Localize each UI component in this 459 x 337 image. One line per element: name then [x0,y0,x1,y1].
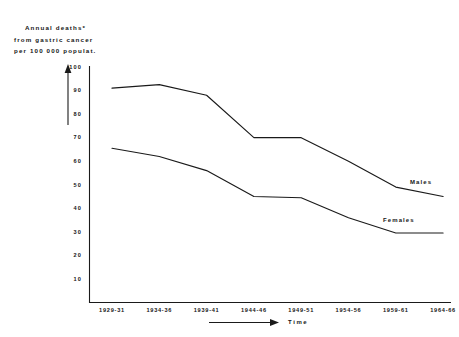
x-axis-title: Time [288,319,308,325]
y-tick-80: 80 [60,111,82,117]
y-tick-90: 90 [60,87,82,93]
series-label-males: Males [410,179,432,185]
x-tick-1944-46: 1944-46 [241,307,267,313]
chart-figure: Annual deaths* from gastric cancer per 1… [0,0,459,337]
plot-area [0,0,459,337]
series-label-females: Females [383,217,415,223]
x-tick-1954-56: 1954-56 [336,307,362,313]
y-tick-30: 30 [60,229,82,235]
x-axis-arrow-icon [209,319,279,326]
y-tick-60: 60 [60,158,82,164]
x-tick-1949-51: 1949-51 [288,307,314,313]
x-tick-1959-61: 1959-61 [383,307,409,313]
x-tick-1934-36: 1934-36 [146,307,172,313]
x-tick-1929-31: 1929-31 [99,307,125,313]
y-tick-40: 40 [60,205,82,211]
y-tick-50: 50 [60,182,82,188]
x-tick-1964-66: 1964-66 [430,307,456,313]
series-line-males [112,85,443,197]
y-tick-100: 100 [60,64,82,70]
y-tick-20: 20 [60,252,82,258]
y-tick-10: 10 [60,276,82,282]
y-tick-70: 70 [60,134,82,140]
x-tick-1939-41: 1939-41 [194,307,220,313]
